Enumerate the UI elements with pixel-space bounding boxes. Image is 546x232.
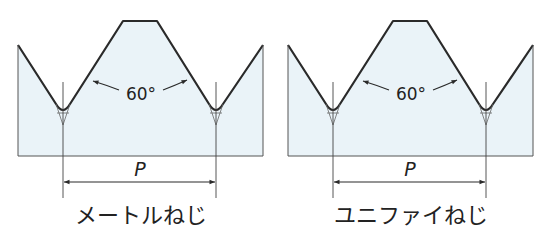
pitch-label: P [404, 158, 416, 180]
unified-thread-diagram: 60° P ユニファイねじ [288, 21, 533, 228]
pitch-label: P [134, 158, 146, 180]
thread-profile-comparison: 60° P メートルねじ 60° P ユニファイねじ [0, 0, 546, 232]
metric-thread-diagram: 60° P メートルねじ [18, 21, 263, 228]
angle-label: 60° [396, 84, 426, 104]
diagram-title: ユニファイねじ [334, 203, 488, 228]
diagram-title: メートルねじ [75, 203, 207, 228]
angle-label: 60° [126, 84, 156, 104]
